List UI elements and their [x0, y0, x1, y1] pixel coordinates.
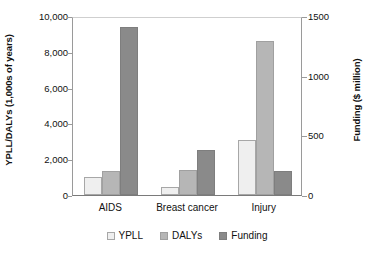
y-axis-right-tickmark — [302, 136, 307, 137]
plot-area — [72, 17, 302, 196]
bar-breast-cancer-ypll — [161, 187, 179, 195]
y-axis-left-tick-10000: 10,000 — [39, 12, 68, 22]
legend-swatch-funding-icon — [219, 232, 227, 240]
y-axis-right-tick-1000: 1000 — [308, 72, 329, 82]
y-axis-right-tickmark — [302, 17, 307, 18]
y-axis-right-tick-1500: 1500 — [308, 12, 329, 22]
y-axis-right-tick-0: 0 — [308, 191, 313, 201]
y-axis-right-tickmark — [302, 196, 307, 197]
y-axis-left-tick-2000: 2,000 — [44, 155, 68, 165]
x-axis-label-aids: AIDS — [72, 202, 149, 213]
bar-injury-ypll — [238, 140, 256, 195]
y-axis-left-tickmark — [67, 196, 72, 197]
legend-item-funding: Funding — [219, 230, 267, 241]
bar-aids-dalys — [102, 171, 120, 195]
y-axis-right-title: Funding ($ million) — [350, 2, 364, 198]
chart-legend: YPLL DALYs Funding — [72, 230, 302, 241]
legend-label-dalys: DALYs — [172, 230, 202, 241]
y-axis-left-tick-6000: 6,000 — [44, 84, 68, 94]
legend-item-ypll: YPLL — [107, 230, 143, 241]
bar-injury-funding — [274, 171, 292, 195]
legend-swatch-dalys-icon — [160, 232, 168, 240]
bar-injury-dalys — [256, 41, 274, 195]
x-axis-label-breast-cancer: Breast cancer — [149, 202, 226, 213]
legend-label-funding: Funding — [231, 230, 267, 241]
y-axis-right-tickmark — [302, 77, 307, 78]
y-axis-left-title: YPLL/DALYs (1,000s of years) — [2, 2, 16, 198]
y-axis-right-tick-500: 500 — [308, 131, 324, 141]
bar-aids-funding — [120, 27, 138, 195]
bar-breast-cancer-dalys — [179, 170, 197, 195]
legend-label-ypll: YPLL — [119, 230, 143, 241]
bar-breast-cancer-funding — [197, 150, 215, 195]
legend-item-dalys: DALYs — [160, 230, 202, 241]
y-axis-left-tick-8000: 8,000 — [44, 48, 68, 58]
y-axis-left-tick-4000: 4,000 — [44, 119, 68, 129]
bar-chart-figure: YPLL/DALYs (1,000s of years) Funding ($ … — [0, 0, 374, 256]
bar-aids-ypll — [84, 177, 102, 195]
legend-swatch-ypll-icon — [107, 232, 115, 240]
x-axis-label-injury: Injury — [225, 202, 302, 213]
